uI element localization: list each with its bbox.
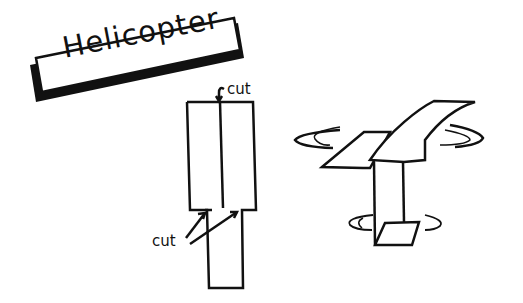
- folded-helicopter: [295, 101, 483, 245]
- cut-label-bottom: cut: [152, 232, 176, 250]
- flat-template: [186, 88, 256, 288]
- cut-label-top: cut: [227, 80, 251, 98]
- diagram-canvas: Helicopter cut cut: [0, 0, 523, 303]
